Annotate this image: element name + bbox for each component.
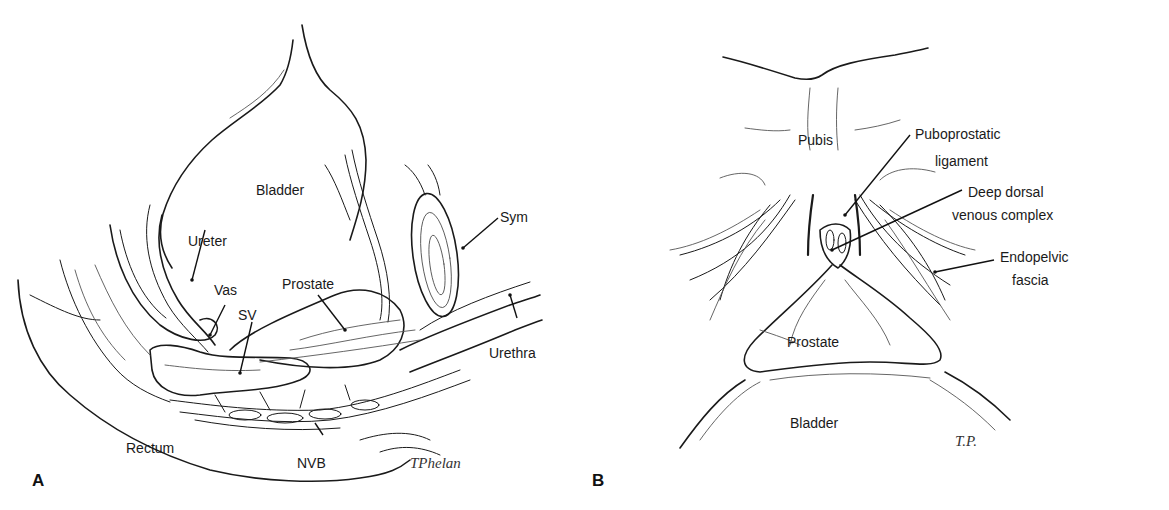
label-endopelvic-line1: Endopelvic <box>1000 249 1069 265</box>
label-bladder-a: Bladder <box>256 182 305 198</box>
label-prostate-a: Prostate <box>282 276 334 292</box>
label-vas: Vas <box>214 282 237 298</box>
label-puboprostatic-line1: Puboprostatic <box>915 126 1001 142</box>
pubis-outline-b <box>720 48 935 185</box>
panel-label-a: A <box>32 471 44 490</box>
artist-signature-b: T.P. <box>955 433 977 449</box>
nvb-network-a <box>170 370 470 430</box>
bladder-outline-a <box>160 25 366 268</box>
symphysis-a <box>405 165 466 319</box>
ureter-a <box>147 205 215 352</box>
label-puboprostatic-line2: ligament <box>935 153 988 169</box>
label-ddvc-line2: venous complex <box>952 207 1053 223</box>
prostate-b <box>744 265 941 372</box>
label-pubis: Pubis <box>798 132 833 148</box>
seminal-vesicle-a <box>150 345 310 395</box>
label-urethra: Urethra <box>489 345 536 361</box>
label-prostate-b: Prostate <box>787 334 839 350</box>
label-bladder-b: Bladder <box>790 415 839 431</box>
endopelvic-fascia-lines-b <box>670 195 975 320</box>
artist-signature-a: TPhelan <box>410 455 461 471</box>
panel-a: Bladder Ureter Vas SV Prostate Sym Ureth… <box>18 25 542 490</box>
label-endopelvic-line2: fascia <box>1012 272 1049 288</box>
panel-b: Pubis Puboprostatic ligament Deep dorsal… <box>592 48 1069 490</box>
label-ddvc-line1: Deep dorsal <box>968 184 1044 200</box>
label-ureter: Ureter <box>188 233 227 249</box>
anatomy-figure: Bladder Ureter Vas SV Prostate Sym Ureth… <box>0 0 1169 510</box>
label-nvb: NVB <box>297 455 326 471</box>
label-rectum: Rectum <box>126 440 174 456</box>
label-sv: SV <box>238 307 257 323</box>
prostate-a <box>230 290 404 368</box>
label-sym: Sym <box>500 209 528 225</box>
panel-label-b: B <box>592 471 604 490</box>
